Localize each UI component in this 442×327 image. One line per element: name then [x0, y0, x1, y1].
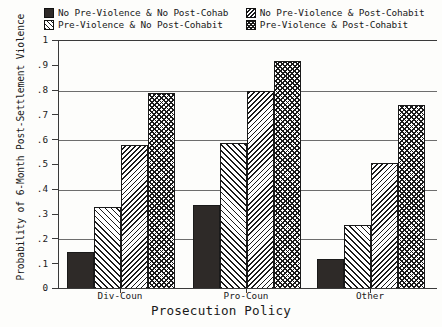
- legend-label-2: No Pre-Violence & Post-Cohabit: [260, 7, 425, 18]
- plot-area: [58, 40, 437, 289]
- y-tick-label: .3: [26, 209, 48, 218]
- y-tick-label: .6: [26, 135, 48, 144]
- bar[interactable]: [148, 93, 175, 289]
- cross-hatch-swatch-icon: [246, 20, 256, 30]
- bar[interactable]: [247, 91, 274, 289]
- legend-entry-3: Pre-Violence & No Post-Cohabit: [44, 19, 240, 30]
- bar[interactable]: [344, 225, 371, 289]
- y-tick-label: .1: [26, 259, 48, 268]
- bar[interactable]: [398, 105, 425, 289]
- x-tick-label: Pro-Coun: [206, 291, 286, 301]
- legend-entry-1: No Pre-Violence & No Post-Cohab: [44, 7, 240, 18]
- x-axis-line: [58, 288, 437, 289]
- legend-entry-4: Pre-Violence & Post-Cohabit: [246, 19, 436, 30]
- y-tick-label: .2: [26, 234, 48, 243]
- bar[interactable]: [67, 252, 94, 289]
- y-tick-label: .8: [26, 85, 48, 94]
- y-tick-label: .9: [26, 60, 48, 69]
- dense-hatch-swatch-icon: [246, 8, 256, 18]
- bar-group-other: [317, 41, 425, 289]
- y-axis-title: Probability of 6-Month Post-Settlement V…: [15, 31, 26, 281]
- bar[interactable]: [317, 259, 344, 289]
- hatch-swatch-icon: [44, 20, 54, 30]
- bar[interactable]: [274, 61, 301, 289]
- bar-group-div-coun: [67, 41, 175, 289]
- legend-label-4: Pre-Violence & Post-Cohabit: [260, 19, 408, 30]
- solid-swatch-icon: [44, 8, 54, 18]
- bar[interactable]: [193, 205, 220, 289]
- y-tick-label: 1: [26, 35, 48, 44]
- bar[interactable]: [220, 143, 247, 289]
- x-axis-title: Prosecution Policy: [0, 303, 442, 318]
- bar[interactable]: [121, 145, 148, 289]
- legend-label-3: Pre-Violence & No Post-Cohabit: [58, 19, 223, 30]
- chart-legend: No Pre-Violence & No Post-Cohab No Pre-V…: [44, 7, 436, 30]
- bar[interactable]: [371, 163, 398, 289]
- legend-label-1: No Pre-Violence & No Post-Cohab: [58, 7, 228, 18]
- bar-chart: No Pre-Violence & No Post-Cohab No Pre-V…: [0, 0, 442, 327]
- y-tick-label: 0: [26, 283, 48, 292]
- bar-group-pro-coun: [193, 41, 301, 289]
- y-tick-label: .7: [26, 110, 48, 119]
- legend-entry-2: No Pre-Violence & Post-Cohabit: [246, 7, 436, 18]
- bar[interactable]: [94, 207, 121, 289]
- x-tick-label: Div-Coun: [80, 291, 160, 301]
- y-tick-label: .4: [26, 184, 48, 193]
- x-tick-label: Other: [330, 291, 410, 301]
- y-tick-label: .5: [26, 159, 48, 168]
